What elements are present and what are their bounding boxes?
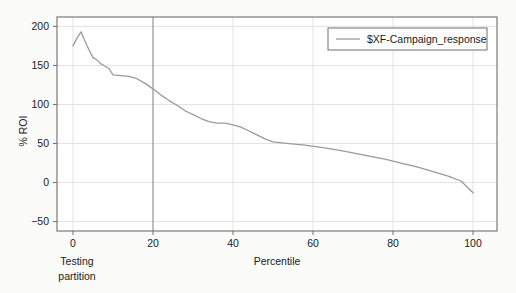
chart-legend: $XF-Campaign_response — [328, 28, 487, 50]
x-tick-label-80: 80 — [387, 237, 399, 249]
y-tick-label-50: 50 — [37, 137, 49, 149]
y-tick-label-100: 100 — [31, 98, 49, 110]
x-axis-title: Percentile — [254, 255, 301, 267]
y-tick-label-0: 0 — [43, 176, 49, 188]
chart-svg: 200150100500−50 020406080100 % ROI Perce… — [0, 0, 516, 293]
x-tick-label-40: 40 — [227, 237, 239, 249]
legend-label-campaign-response: $XF-Campaign_response — [367, 33, 487, 45]
x-tick-label-100: 100 — [464, 237, 482, 249]
partition-label-line2: partition — [58, 270, 96, 282]
y-axis-title: % ROI — [17, 116, 29, 147]
partition-label-line1: Testing — [60, 255, 93, 267]
roi-percentile-chart: 200150100500−50 020406080100 % ROI Perce… — [0, 0, 516, 293]
x-tick-label-0: 0 — [70, 237, 76, 249]
x-tick-label-60: 60 — [307, 237, 319, 249]
y-tick-label--50: −50 — [31, 215, 49, 227]
y-tick-label-200: 200 — [31, 20, 49, 32]
y-tick-label-150: 150 — [31, 59, 49, 71]
x-tick-label-20: 20 — [147, 237, 159, 249]
